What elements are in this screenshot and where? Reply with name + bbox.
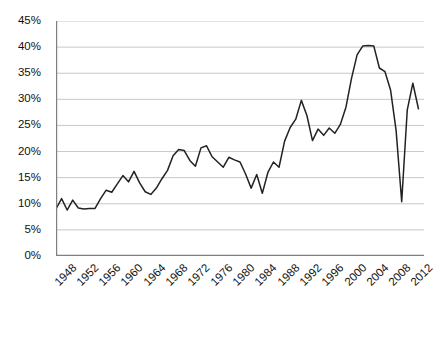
x-tick-label: 1984 (253, 262, 279, 288)
x-tick-label: 1976 (209, 262, 235, 288)
x-tick-label: 2008 (387, 262, 413, 288)
x-tick-label: 1988 (275, 262, 301, 288)
chart-container: 0%5%10%15%20%25%30%35%40%45% 19481952195… (0, 0, 440, 337)
x-tick-label: 1972 (186, 262, 212, 288)
x-tick-label: 2004 (365, 262, 391, 288)
x-tick-label: 1992 (298, 262, 324, 288)
x-tick-label: 1956 (97, 262, 123, 288)
x-tick-label: 1964 (142, 262, 168, 288)
x-tick-label: 1948 (52, 262, 78, 288)
x-axis: 1948195219561960196419681972197619801984… (0, 0, 440, 337)
x-tick-label: 1980 (231, 262, 257, 288)
x-tick-label: 1952 (75, 262, 101, 288)
x-tick-label: 2012 (409, 262, 435, 288)
x-tick-label: 1968 (164, 262, 190, 288)
x-tick-label: 2000 (342, 262, 368, 288)
x-tick-label: 1996 (320, 262, 346, 288)
x-tick-label: 1960 (119, 262, 145, 288)
